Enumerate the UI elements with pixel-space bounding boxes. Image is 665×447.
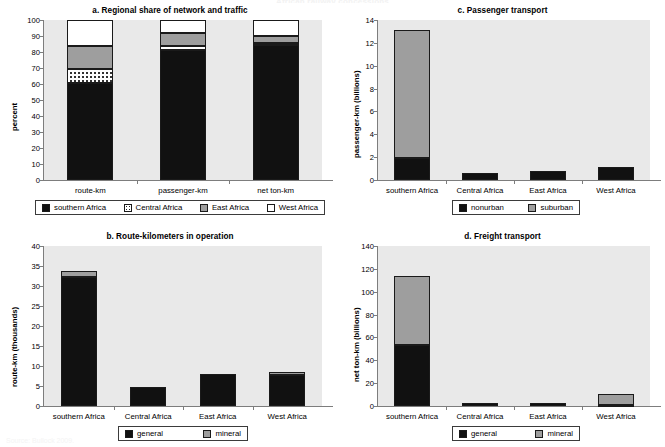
chart-d-segment-general xyxy=(462,403,498,406)
chart-d-bar-2 xyxy=(530,403,566,406)
chart-b-ytick-label: 25 xyxy=(20,302,40,311)
chart-a-bar-2 xyxy=(253,20,299,180)
chart-b-ytick-mark xyxy=(40,286,43,287)
chart-d-ytick-label: 0 xyxy=(354,402,374,411)
chart-b-segment-general xyxy=(269,375,305,406)
chart-d-xtick-label: southern Africa xyxy=(386,412,438,421)
legend-label: mineral xyxy=(547,429,573,438)
chart-panel-c: c. Passenger transport passenger-km (bil… xyxy=(340,6,665,218)
chart-a-ytick-mark xyxy=(40,52,43,53)
chart-d-ytick-mark xyxy=(374,269,377,270)
legend-label: southern Africa xyxy=(54,203,106,212)
chart-d-y-axis xyxy=(377,246,378,407)
chart-b-title: b. Route-kilometers in operation xyxy=(0,232,340,241)
chart-a-ytick-mark xyxy=(40,84,43,85)
chart-a-segment-east-africa xyxy=(160,33,206,47)
chart-c-segment-suburban xyxy=(394,30,430,158)
chart-b-ytick-mark xyxy=(40,406,43,407)
chart-a-legend: southern AfricaCentral AfricaEast Africa… xyxy=(35,200,325,215)
figure-page: African railway concessions Source: Bull… xyxy=(0,0,665,447)
legend-label: Central Africa xyxy=(136,203,183,212)
chart-a-segment-west-africa xyxy=(67,20,113,46)
chart-a-ytick-mark xyxy=(40,36,43,37)
chart-a-legend-item-east-africa[interactable]: East Africa xyxy=(200,203,249,212)
chart-c-xtick-mark xyxy=(582,181,583,184)
chart-a-segment-southern-africa xyxy=(253,45,299,180)
legend-swatch-icon xyxy=(535,430,543,438)
chart-c-ytick-mark xyxy=(374,180,377,181)
chart-c-y-axis xyxy=(377,20,378,181)
legend-swatch-icon xyxy=(125,430,133,438)
chart-b-ytick-label: 20 xyxy=(20,322,40,331)
chart-b-xtick-label: Central Africa xyxy=(125,412,172,421)
chart-d-ytick-mark xyxy=(374,246,377,247)
chart-b-xtick-label: West Africa xyxy=(268,412,307,421)
chart-d-title: d. Freight transport xyxy=(340,232,665,241)
legend-swatch-icon xyxy=(459,204,467,212)
chart-d-ytick-label: 120 xyxy=(354,264,374,273)
legend-swatch-icon xyxy=(267,204,275,212)
chart-a-ytick-label: 80 xyxy=(20,48,40,57)
chart-c-ytick-label: 2 xyxy=(354,153,374,162)
chart-d-segment-mineral xyxy=(394,276,430,346)
chart-d-segment-general xyxy=(394,345,430,406)
chart-b-ytick-label: 10 xyxy=(20,362,40,371)
chart-d-ytick-mark xyxy=(374,383,377,384)
chart-b-y-axis xyxy=(43,246,44,407)
chart-a-legend-item-southern-africa[interactable]: southern Africa xyxy=(42,203,106,212)
chart-d-xtick-mark xyxy=(582,407,583,410)
chart-a-xtick-label: passenger-km xyxy=(158,186,207,195)
chart-c-legend-item-suburban[interactable]: suburban xyxy=(528,203,573,212)
chart-c-xtick-label: Central Africa xyxy=(457,186,504,195)
chart-a-ytick-mark xyxy=(40,20,43,21)
chart-a-segment-east-africa xyxy=(67,46,113,69)
chart-c-x-axis xyxy=(377,180,661,181)
chart-c-bar-0 xyxy=(394,30,430,180)
chart-panel-b: b. Route-kilometers in operation route-k… xyxy=(0,232,340,444)
chart-d-xtick-mark xyxy=(446,407,447,410)
chart-b-legend: generalmineral xyxy=(118,426,248,441)
chart-c-ytick-label: 4 xyxy=(354,130,374,139)
chart-a-ytick-mark xyxy=(40,148,43,149)
chart-d-legend-item-mineral[interactable]: mineral xyxy=(535,429,573,438)
chart-c-ytick-label: 6 xyxy=(354,107,374,116)
chart-d-legend-item-general[interactable]: general xyxy=(459,429,497,438)
chart-c-ytick-label: 14 xyxy=(354,16,374,25)
chart-c-ytick-label: 10 xyxy=(354,61,374,70)
chart-d-ytick-label: 100 xyxy=(354,287,374,296)
chart-d-ytick-mark xyxy=(374,406,377,407)
chart-c-xtick-mark xyxy=(446,181,447,184)
chart-d-ytick-mark xyxy=(374,360,377,361)
chart-d-xtick-label: East Africa xyxy=(529,412,566,421)
chart-b-bar-0 xyxy=(61,271,97,406)
chart-d-xtick-label: Central Africa xyxy=(457,412,504,421)
chart-c-ytick-label: 0 xyxy=(354,176,374,185)
chart-a-xtick-mark xyxy=(137,181,138,184)
chart-b-xtick-label: East Africa xyxy=(199,412,236,421)
chart-b-legend-item-general[interactable]: general xyxy=(125,429,163,438)
chart-a-ytick-label: 40 xyxy=(20,112,40,121)
chart-d-ytick-label: 80 xyxy=(354,310,374,319)
chart-b-ytick-label: 40 xyxy=(20,242,40,251)
chart-d-ytick-mark xyxy=(374,315,377,316)
chart-b-ytick-label: 30 xyxy=(20,282,40,291)
legend-swatch-icon xyxy=(203,430,211,438)
chart-b-bar-2 xyxy=(200,374,236,406)
chart-a-legend-item-west-africa[interactable]: West Africa xyxy=(267,203,318,212)
chart-a-legend-item-central-africa[interactable]: Central Africa xyxy=(124,203,183,212)
chart-c-xtick-label: West Africa xyxy=(596,186,635,195)
chart-b-ytick-label: 0 xyxy=(20,402,40,411)
chart-a-y-axis xyxy=(43,20,44,181)
chart-c-title: c. Passenger transport xyxy=(340,6,665,15)
chart-b-x-axis xyxy=(43,406,333,407)
chart-a-ytick-label: 100 xyxy=(20,16,40,25)
chart-b-ytick-label: 15 xyxy=(20,342,40,351)
chart-b-legend-item-mineral[interactable]: mineral xyxy=(203,429,241,438)
chart-b-ytick-mark xyxy=(40,266,43,267)
chart-a-ytick-label: 20 xyxy=(20,144,40,153)
chart-d-bar-3 xyxy=(598,394,634,406)
chart-c-legend-item-nonurban[interactable]: nonurban xyxy=(459,203,504,212)
chart-c-xtick-label: East Africa xyxy=(529,186,566,195)
chart-d-segment-general xyxy=(598,405,634,407)
legend-swatch-icon xyxy=(528,204,536,212)
